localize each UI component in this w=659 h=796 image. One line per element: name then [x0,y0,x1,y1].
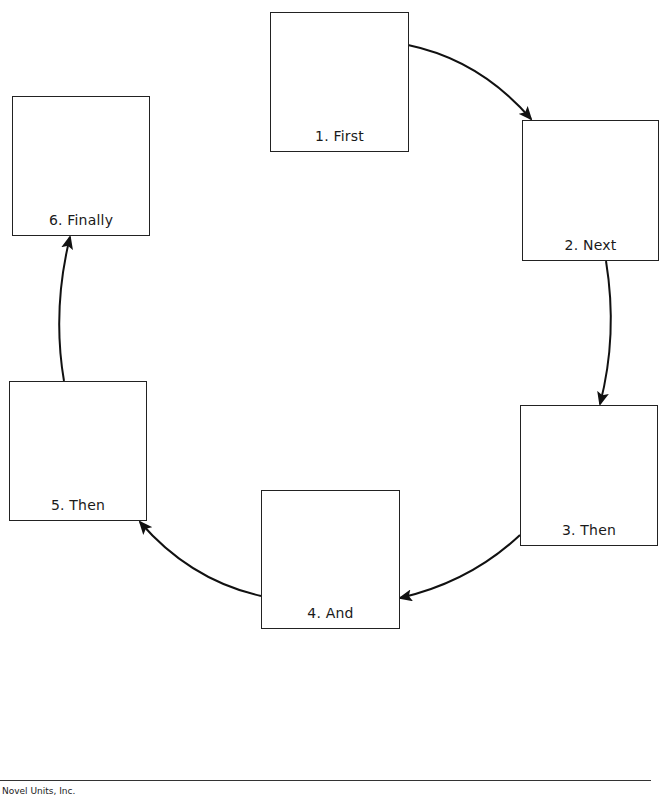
arrow-step1-to-step2 [408,45,531,119]
arrow-step4-to-step5 [140,522,261,596]
step-box-6: 6. Finally [12,96,150,236]
publisher-credit: Novel Units, Inc. [2,786,75,796]
step-box-2: 2. Next [522,120,659,261]
arrow-step5-to-step6 [59,237,70,381]
step-box-1: 1. First [270,12,409,152]
footer-divider [0,780,651,781]
step-label: 5. Then [10,497,146,513]
sequence-cycle-diagram: 1. First 2. Next 3. Then 4. And 5. Then … [0,0,659,796]
step-label: 6. Finally [13,212,149,228]
step-label: 2. Next [523,237,658,253]
step-box-4: 4. And [261,490,400,629]
step-label: 3. Then [521,522,657,538]
arrow-step2-to-step3 [600,261,611,404]
step-label: 1. First [271,128,408,144]
step-box-5: 5. Then [9,381,147,521]
arrow-step3-to-step4 [400,535,520,598]
step-box-3: 3. Then [520,405,658,546]
step-label: 4. And [262,605,399,621]
